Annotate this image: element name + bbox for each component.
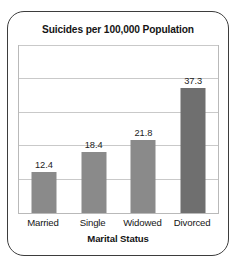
bar-value-label: 37.3	[184, 76, 202, 86]
bar[interactable]	[81, 152, 106, 213]
x-axis-title: Marital Status	[8, 233, 228, 244]
bar[interactable]	[181, 88, 206, 213]
bar-slot: 12.4	[19, 46, 69, 213]
x-axis-label: Widowed	[118, 217, 168, 228]
bar-value-label: 18.4	[85, 140, 103, 150]
plot-area: 12.418.421.837.3	[18, 45, 219, 214]
bar-slot: 37.3	[168, 46, 218, 213]
bar-slot: 18.4	[69, 46, 119, 213]
chart-card: Suicides per 100,000 Population 12.418.4…	[7, 11, 229, 256]
bar[interactable]	[131, 140, 156, 213]
x-axis-label: Single	[68, 217, 118, 228]
x-axis-tick-labels: MarriedSingleWidowedDivorced	[18, 217, 219, 231]
bar-value-label: 21.8	[135, 128, 153, 138]
x-axis-label: Married	[18, 217, 68, 228]
chart-title: Suicides per 100,000 Population	[8, 24, 228, 35]
bar-value-label: 12.4	[35, 160, 53, 170]
x-axis-label: Divorced	[167, 217, 217, 228]
bar-slot: 21.8	[119, 46, 169, 213]
bars-group: 12.418.421.837.3	[19, 46, 218, 213]
bar[interactable]	[31, 172, 56, 213]
